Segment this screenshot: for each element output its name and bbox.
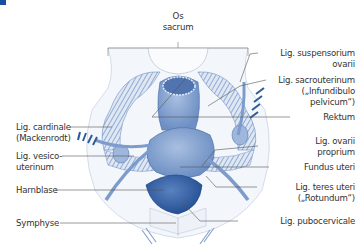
label-line: („Infundibulo — [278, 86, 355, 97]
label-line: Lig. suspensorium — [280, 48, 355, 59]
label-lig-pubocervicale: Lig. pubocervicale — [280, 216, 355, 227]
label-line: ovarii — [280, 59, 355, 70]
label-symphyse: Symphyse — [16, 218, 59, 229]
label-lig-sacrouterinum: Lig. sacrouterinum („Infundibulo pelvicu… — [278, 75, 355, 108]
label-lig-cardinale: Lig. cardinale (Mackenrodt) — [16, 122, 71, 144]
label-line: Lig. teres uteri — [296, 182, 355, 193]
label-fundus-uteri: Fundus uteri — [304, 162, 355, 173]
label-lig-teres-uteri: Lig. teres uteri („Rotundum“) — [296, 182, 355, 204]
label-line: proprium — [315, 147, 355, 158]
label-line: Os — [155, 11, 201, 22]
label-line: uterinum — [16, 162, 62, 173]
label-lig-ovarii-proprium: Lig. ovarii proprium — [315, 136, 355, 158]
label-line: Lig. sacrouterinum — [278, 75, 355, 86]
label-lig-suspensorium-ovarii: Lig. suspensorium ovarii — [280, 48, 355, 70]
label-line: sacrum — [155, 22, 201, 33]
label-line: (Mackenrodt) — [16, 133, 71, 144]
label-harnblase: Harnblase — [16, 185, 58, 196]
label-line: Lig. vesico- — [16, 151, 62, 162]
label-line: Lig. cardinale — [16, 122, 71, 133]
label-line: pelvicum“) — [278, 97, 355, 108]
label-line: („Rotundum“) — [296, 193, 355, 204]
label-lig-vesicouterinum: Lig. vesico- uterinum — [16, 151, 62, 173]
label-os-sacrum: Os sacrum — [155, 11, 201, 33]
label-line: Lig. ovarii — [315, 136, 355, 147]
label-rektum: Rektum — [323, 112, 355, 123]
